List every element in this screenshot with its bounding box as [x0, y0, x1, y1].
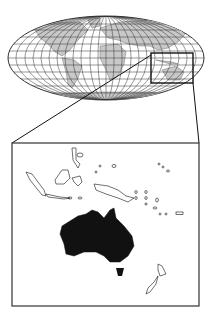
connector-line-right — [193, 83, 199, 143]
inset-map — [12, 143, 199, 306]
diagram-canvas — [0, 0, 215, 318]
world-map — [0, 0, 215, 120]
